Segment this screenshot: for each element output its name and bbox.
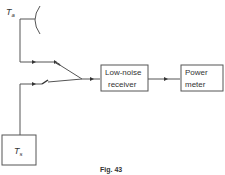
meter-label-2: meter (185, 80, 206, 89)
arrow-icon (32, 60, 36, 64)
arrow-icon (90, 77, 94, 81)
switch-arm-upper (55, 62, 82, 79)
source-temperature-label: Ts (14, 146, 23, 157)
antenna-dish-icon (35, 6, 40, 34)
antenna-line (20, 19, 55, 62)
arrow-icon (32, 82, 36, 86)
switch-arm-lower (48, 79, 82, 82)
antenna-temperature-label: Ta (6, 7, 16, 18)
figure-caption: Fig. 43 (100, 166, 122, 174)
radiometer-diagram: Ta Low-noise receiver Power meter Ts Fig… (0, 0, 225, 175)
meter-label-1: Power (185, 68, 208, 77)
receiver-label-2: receiver (108, 80, 137, 89)
source-line (20, 84, 42, 135)
receiver-label-1: Low-noise (105, 68, 142, 77)
switch-contact-lower (42, 80, 48, 84)
arrow-icon (164, 77, 168, 81)
